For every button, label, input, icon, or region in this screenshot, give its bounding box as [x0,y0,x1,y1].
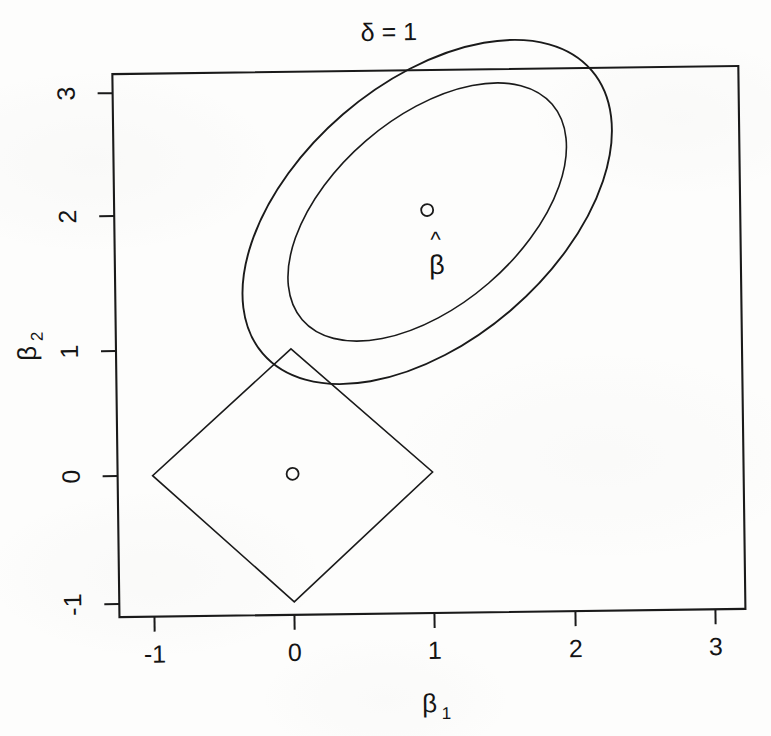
y-tick-label: 1 [55,345,83,359]
x-tick-label: 2 [569,634,583,662]
y-tick-label: 0 [57,470,85,484]
x-tick-label: 0 [288,638,302,666]
y-axis-title-group: β 2 [12,332,47,361]
l1-constraint-diamond [151,347,434,604]
x-tick-label: 1 [428,636,442,664]
beta-hat-caret: ^ [430,227,441,252]
plot-frame [112,66,745,617]
x-axis-title-group: β 1 [422,688,451,723]
x-tick-label: 3 [709,632,723,660]
x-tick-labels: -1 0 1 2 3 [144,632,723,668]
beta-hat-label: β [429,250,445,280]
inner-rss-contour-ellipse [241,33,614,391]
plot-title: δ = 1 [360,17,417,46]
y-tick-label: -1 [58,593,86,616]
x-tick-label: -1 [144,639,167,667]
beta-hat-marker [421,204,433,216]
y-axis-title: β [12,346,42,361]
x-axis-title-subscript: 1 [442,704,452,723]
plot-canvas: ^ β -1 0 1 2 3 -1 0 1 2 3 β 2 [0,0,771,736]
x-axis-title: β [422,688,437,718]
y-tick-labels: -1 0 1 2 3 [52,87,87,616]
y-tick-label: 3 [52,87,80,101]
origin-marker [287,468,299,480]
scan-rotation-group: ^ β -1 0 1 2 3 -1 0 1 2 3 β 2 [7,0,747,728]
y-axis-title-subscript: 2 [28,332,47,342]
figure-root: ^ β -1 0 1 2 3 -1 0 1 2 3 β 2 [0,0,771,736]
y-tick-label: 2 [53,210,81,224]
